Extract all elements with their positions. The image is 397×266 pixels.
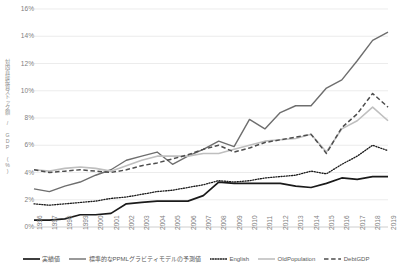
legend-swatch-4 — [324, 256, 341, 262]
legend-item[interactable]: 標準的なPPMLグラビティモデルの予測値 — [69, 256, 201, 262]
legend-swatch-1 — [69, 256, 86, 262]
x-tick-label: 2014 — [314, 215, 321, 230]
x-tick-label: 2004 — [160, 215, 167, 230]
x-tick-label: 2003 — [144, 215, 151, 230]
x-tick-label: 2011 — [267, 216, 274, 230]
x-tick-label: 2016 — [344, 215, 351, 230]
legend-label: OldPopulation — [278, 256, 316, 262]
x-tick-label: 1996 — [37, 215, 44, 230]
chart-legend: 実績値標準的なPPMLグラビティモデルの予測値EnglishOldPopulat… — [0, 251, 392, 266]
x-tick-label: 2002 — [129, 215, 136, 230]
legend-label: DebtGDP — [344, 256, 370, 262]
x-tick-label: 2018 — [375, 215, 382, 230]
x-tick-label: 1997 — [52, 215, 59, 230]
x-tick-label: 2010 — [252, 215, 259, 230]
legend-label: 実績値 — [42, 256, 60, 262]
x-tick-label: 2008 — [221, 215, 228, 230]
x-tick-label: 2009 — [237, 215, 244, 230]
x-tick-label: 2012 — [283, 215, 290, 230]
legend-swatch-3 — [258, 256, 275, 262]
x-tick-label: 2001 — [114, 215, 121, 230]
legend-item[interactable]: DebtGDP — [324, 256, 369, 262]
x-tick-label: 2015 — [329, 215, 336, 230]
legend-label: English — [229, 256, 249, 262]
x-tick-label: 2006 — [191, 215, 198, 230]
x-tick-label: 2000 — [98, 215, 105, 230]
x-tick-label: 2019 — [391, 215, 397, 230]
legend-item[interactable]: English — [210, 256, 249, 262]
x-tick-label: 1999 — [83, 215, 90, 230]
x-tick-label: 2007 — [206, 215, 213, 230]
legend-swatch-0 — [23, 256, 40, 262]
legend-swatch-2 — [210, 256, 227, 262]
legend-item[interactable]: OldPopulation — [258, 256, 315, 262]
x-tick-label: 2013 — [298, 215, 305, 230]
x-tick-label: 1998 — [67, 215, 74, 230]
legend-label: 標準的なPPMLグラビティモデルの予測値 — [89, 256, 201, 262]
legend-item[interactable]: 実績値 — [23, 256, 61, 262]
x-tick-label: 2017 — [360, 215, 367, 230]
x-tick-label: 2005 — [175, 215, 182, 230]
